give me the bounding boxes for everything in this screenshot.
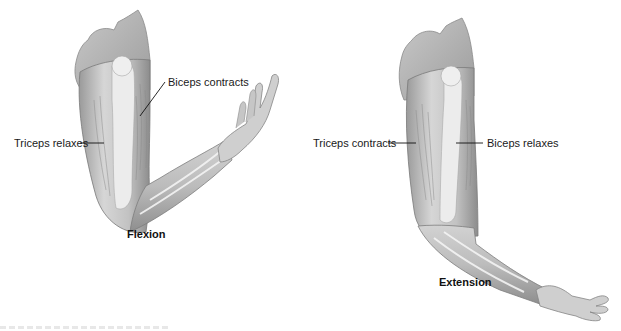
cropped-figure-caption-fragment xyxy=(0,326,170,329)
label-biceps-relaxes: Biceps relaxes xyxy=(487,137,559,149)
label-biceps-contracts: Biceps contracts xyxy=(168,76,249,88)
label-triceps-contracts: Triceps contracts xyxy=(313,137,396,149)
extension-arm xyxy=(399,18,608,321)
label-triceps-relaxes: Triceps relaxes xyxy=(14,137,88,149)
caption-flexion: Flexion xyxy=(127,228,166,240)
caption-extension: Extension xyxy=(439,276,492,288)
flexion-arm xyxy=(75,10,279,233)
arm-illustrations xyxy=(0,0,621,331)
arm-muscle-diagram: Biceps contracts Triceps relaxes Flexion… xyxy=(0,0,621,331)
